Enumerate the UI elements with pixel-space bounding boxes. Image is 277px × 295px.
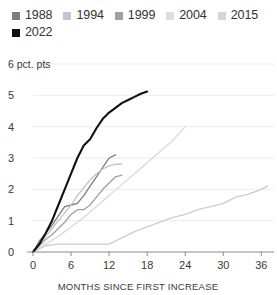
legend-item-label: 2015 bbox=[231, 9, 258, 22]
legend-swatch-icon bbox=[12, 29, 20, 37]
series-line-1999 bbox=[33, 175, 122, 252]
legend-item-2004[interactable]: 2004 bbox=[166, 7, 206, 24]
y-tick-label: 0 bbox=[8, 246, 14, 258]
y-axis-unit-label: 6 pct. pts bbox=[8, 58, 51, 70]
x-tick-labels: 061218243036 bbox=[30, 259, 268, 271]
legend-item-1994[interactable]: 1994 bbox=[63, 7, 103, 24]
legend-item-2015[interactable]: 2015 bbox=[218, 7, 258, 24]
x-axis bbox=[27, 252, 274, 256]
legend-item-1988[interactable]: 1988 bbox=[12, 7, 52, 24]
legend-swatch-icon bbox=[166, 12, 174, 20]
x-axis-title: MONTHS SINCE FIRST INCREASE bbox=[58, 281, 219, 292]
chart-container: 198819941999200420152022 0123456 pct. pt… bbox=[0, 0, 277, 295]
x-tick-label: 0 bbox=[30, 259, 36, 271]
legend-swatch-icon bbox=[12, 12, 20, 20]
y-tick-label: 2 bbox=[8, 183, 14, 195]
legend-swatch-icon bbox=[115, 12, 123, 20]
legend-item-1999[interactable]: 1999 bbox=[115, 7, 155, 24]
x-tick-label: 18 bbox=[141, 259, 153, 271]
line-chart-svg: 0123456 pct. pts 061218243036 MONTHS SIN… bbox=[0, 52, 277, 295]
y-tick-label: 4 bbox=[8, 121, 14, 133]
y-tick-label: 5 bbox=[8, 89, 14, 101]
series-lines bbox=[33, 92, 268, 252]
series-line-2015 bbox=[33, 186, 268, 252]
plot-area: 0123456 pct. pts 061218243036 MONTHS SIN… bbox=[0, 52, 277, 295]
x-tick-label: 24 bbox=[179, 259, 191, 271]
legend-item-label: 1988 bbox=[25, 9, 52, 22]
x-tick-label: 12 bbox=[103, 259, 115, 271]
x-tick-label: 30 bbox=[217, 259, 229, 271]
legend-swatch-icon bbox=[63, 12, 71, 20]
x-tick-label: 36 bbox=[255, 259, 267, 271]
legend-item-label: 2004 bbox=[179, 9, 206, 22]
legend-item-label: 1999 bbox=[128, 9, 155, 22]
chart-legend: 198819941999200420152022 bbox=[12, 7, 274, 41]
x-tick-label: 6 bbox=[68, 259, 74, 271]
legend-item-label: 1994 bbox=[76, 9, 103, 22]
legend-swatch-icon bbox=[218, 12, 226, 20]
legend-item-2022[interactable]: 2022 bbox=[12, 24, 52, 41]
legend-item-label: 2022 bbox=[25, 26, 52, 39]
y-tick-label: 3 bbox=[8, 152, 14, 164]
y-tick-label: 1 bbox=[8, 215, 14, 227]
